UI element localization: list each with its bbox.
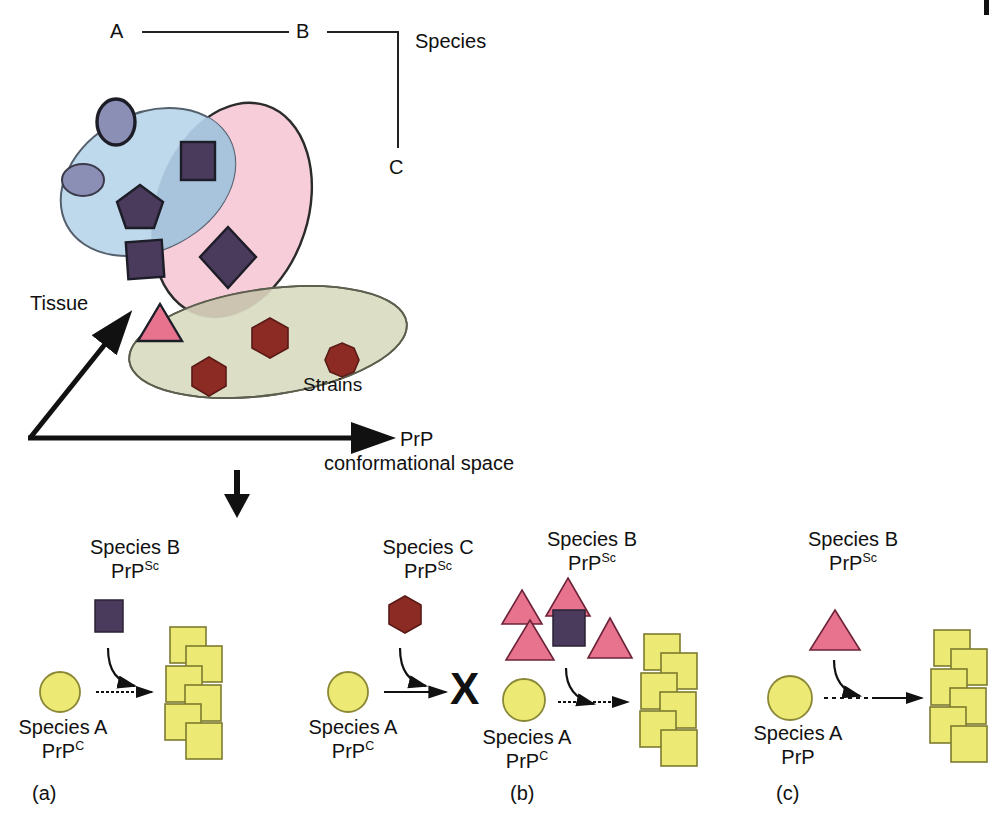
panel-a1-host-species: Species A [0,716,138,738]
species-node-b: B [296,20,309,42]
panel-b-triangle-right [588,618,632,658]
panel-c-donor-shape [810,610,860,650]
conformer-square-1 [181,142,215,180]
prp-axis-label-line2: conformational space [324,452,514,474]
panel-b-host-isoform: PrPC [452,750,602,772]
panel-a2-blocked-symbol: X [450,664,479,713]
panel-a2-host-species: Species A [278,716,428,738]
panel-c-host-isoform: PrP [718,746,878,768]
panel-c-host-species: Species A [718,722,878,744]
panel-a1-donor-shape [95,600,123,632]
panel-a1-curved-arrow [108,648,135,686]
panel-a2-host-isoform: PrPC [278,740,428,762]
species-node-a: A [110,20,123,42]
panel-a-label: (a) [32,782,56,804]
panel-c-aggregate [930,630,987,762]
tissue-axis-arrow [30,318,126,438]
panel-a1-host-isoform: PrPC [0,740,138,762]
sup-c: C [365,739,374,753]
panel-c-curved-arrow [834,660,860,696]
panel-a2-host-shape [328,672,368,712]
conformer-ellipse-1 [97,99,135,145]
panel-b-label: (b) [510,782,534,804]
panel-c-label: (c) [776,782,799,804]
tissue-axis-label: Tissue [30,292,88,314]
panel-b-curved-arrow [566,668,594,704]
panel-a1-aggregate [165,627,222,759]
panel-c-host-shape [768,676,812,720]
sup-c: C [539,749,548,763]
panel-b-donor-square [553,610,585,646]
conformer-ellipse-2 [62,164,104,196]
panel-c-graphics [730,520,1006,830]
panel-b-triangle-left [502,590,542,624]
panel-a2-donor-shape [389,596,421,633]
panel-b-aggregate [640,634,697,766]
panel-b-host-shape [503,679,545,721]
panel-a: Species B PrPSc [0,520,335,830]
panel-b: Species B PrPSc [480,520,740,830]
panel-a2-curved-arrow [400,648,426,686]
conformer-square-2 [126,240,164,279]
panel-c: Species B PrPSc [730,520,1006,830]
panel-b-host-species: Species A [452,726,602,748]
figure-canvas: A B C Species [0,0,1006,830]
sup-c: C [75,739,84,753]
panel-b-triangle-lower [506,620,554,660]
panel-a1-host-shape [40,672,80,712]
species-axis-label: Species [415,30,486,52]
top-diagram: A B C Species [0,0,1006,520]
prp-axis-label-line1: PrP [400,428,433,450]
flow-down-arrow [215,468,263,520]
